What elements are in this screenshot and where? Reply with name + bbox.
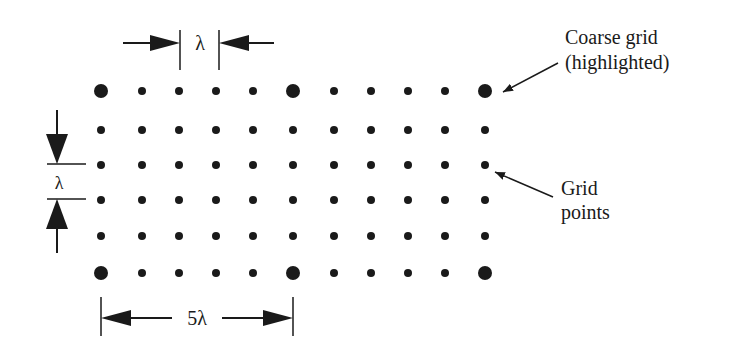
grid-point (138, 161, 146, 169)
arrow-up-icon (46, 199, 68, 229)
grid-points-label-line1: Grid (561, 177, 598, 199)
horizontal-spacing-dimension: λ (123, 30, 274, 70)
coarse-grid-point (94, 266, 108, 280)
grid-point (175, 126, 183, 134)
grid-point (330, 269, 338, 277)
grid-point (404, 269, 412, 277)
grid-points-label-line2: points (561, 201, 610, 224)
grid-point (367, 232, 375, 240)
grid-point (441, 232, 449, 240)
grid-point (441, 196, 449, 204)
grid-point (212, 196, 220, 204)
grid-point (367, 87, 375, 95)
grid-point (249, 161, 257, 169)
grid-point (212, 87, 220, 95)
pointer-arrow-icon (503, 63, 558, 92)
grid-point (481, 232, 489, 240)
coarse-grid-point (286, 84, 300, 98)
grid-point (367, 269, 375, 277)
coarse-grid-point (94, 84, 108, 98)
grid-point (249, 196, 257, 204)
grid-point (175, 161, 183, 169)
grid-point (138, 269, 146, 277)
grid-point (404, 161, 412, 169)
grid-point (212, 161, 220, 169)
coarse-grid-label-line1: Coarse grid (565, 26, 658, 49)
coarse-grid-label-line2: (highlighted) (565, 51, 669, 74)
grid-point (330, 126, 338, 134)
grid-point (441, 87, 449, 95)
grid-point (249, 232, 257, 240)
grid-point (138, 126, 146, 134)
arrow-left-icon (101, 310, 131, 326)
grid-points (94, 84, 492, 280)
grid-point (97, 196, 105, 204)
grid-point (97, 161, 105, 169)
arrow-right-icon (150, 35, 180, 51)
grid-point (367, 161, 375, 169)
grid-point (481, 196, 489, 204)
grid-point (404, 196, 412, 204)
grid-point (404, 232, 412, 240)
grid-point (212, 126, 220, 134)
grid-point (330, 161, 338, 169)
grid-point (249, 126, 257, 134)
grid-point (212, 232, 220, 240)
grid-point (138, 196, 146, 204)
grid-point (289, 232, 297, 240)
arrow-left-icon (219, 35, 249, 51)
coarse-spacing-dimension: 5λ (101, 297, 293, 336)
arrow-right-icon (263, 310, 293, 326)
grid-point (175, 87, 183, 95)
vertical-spacing-dimension: λ (46, 110, 86, 253)
pointer-arrow-icon (495, 172, 553, 197)
grid-point (212, 269, 220, 277)
grid-point (175, 269, 183, 277)
grid-point (367, 196, 375, 204)
grid-point (97, 232, 105, 240)
grid-point (175, 196, 183, 204)
grid-point (481, 161, 489, 169)
grid-point (404, 126, 412, 134)
coarse-spacing-label: 5λ (187, 307, 207, 329)
grid-point (289, 126, 297, 134)
grid-point (441, 161, 449, 169)
grid-point (289, 196, 297, 204)
grid-point (330, 196, 338, 204)
grid-point (441, 126, 449, 134)
grid-point (175, 232, 183, 240)
coarse-grid-annotation: Coarse grid (highlighted) (503, 26, 669, 92)
coarse-grid-point (286, 266, 300, 280)
grid-point (249, 87, 257, 95)
horizontal-spacing-label: λ (195, 32, 205, 54)
grid-point (249, 269, 257, 277)
grid-point (367, 126, 375, 134)
grid-point (481, 126, 489, 134)
grid-point (330, 232, 338, 240)
arrow-down-icon (46, 134, 68, 164)
grid-point (138, 232, 146, 240)
grid-point (441, 269, 449, 277)
grid-point (330, 87, 338, 95)
grid-diagram: λ λ 5λ Coarse grid (highlighted) Grid po… (0, 0, 735, 359)
grid-point (138, 87, 146, 95)
grid-point (404, 87, 412, 95)
grid-point (289, 161, 297, 169)
coarse-grid-point (478, 84, 492, 98)
grid-points-annotation: Grid points (495, 172, 610, 224)
grid-point (97, 126, 105, 134)
coarse-grid-point (478, 266, 492, 280)
vertical-spacing-label: λ (55, 173, 64, 193)
